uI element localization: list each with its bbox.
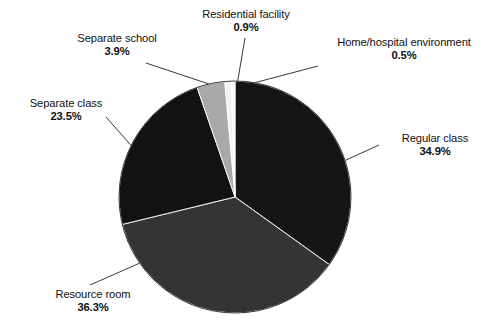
slice-label-name: Residential facility <box>176 8 316 21</box>
slice-label-home-hospital-environment: Home/hospital environment 0.5% <box>322 36 486 62</box>
slice-label-percent: 36.3% <box>24 301 162 314</box>
slice-label-percent: 23.5% <box>4 110 128 123</box>
slice-label-percent: 3.9% <box>55 45 179 58</box>
leader-line-residential-facility <box>237 38 245 85</box>
slice-label-resource-room: Resource room 36.3% <box>24 288 162 314</box>
leader-line-resource-room <box>90 263 140 285</box>
slice-label-separate-class: Separate class 23.5% <box>4 97 128 123</box>
slice-label-percent: 0.9% <box>176 21 316 34</box>
slice-label-separate-school: Separate school 3.9% <box>55 32 179 58</box>
slice-label-name: Home/hospital environment <box>322 36 486 49</box>
slice-label-residential-facility: Residential facility 0.9% <box>176 8 316 34</box>
pie-slices <box>119 81 351 313</box>
slice-label-name: Regular class <box>383 132 487 145</box>
slice-label-name: Separate school <box>55 32 179 45</box>
slice-label-name: Resource room <box>24 288 162 301</box>
slice-label-percent: 0.5% <box>322 49 486 62</box>
leader-line-home-hospital <box>246 66 318 85</box>
slice-label-percent: 34.9% <box>383 145 487 158</box>
pie-chart-figure: Residential facility 0.9% Home/hospital … <box>0 0 487 327</box>
slice-label-regular-class: Regular class 34.9% <box>383 132 487 158</box>
slice-label-name: Separate class <box>4 97 128 110</box>
